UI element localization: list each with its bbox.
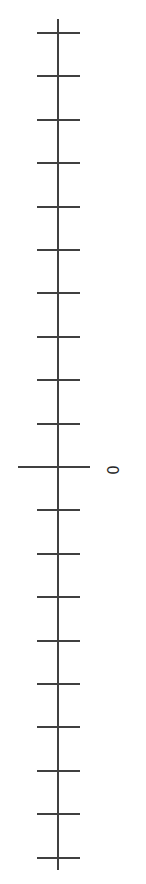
axis-plot-area [0, 0, 146, 884]
axis-tick-label: 0 [107, 465, 122, 475]
figure-background [0, 0, 146, 884]
axis-figure: 0 [0, 0, 146, 884]
